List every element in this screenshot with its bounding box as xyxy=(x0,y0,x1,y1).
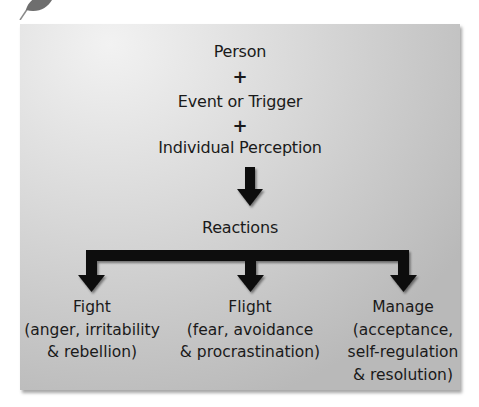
outcome-flight: Flight (fear, avoidance & procrastinatio… xyxy=(165,296,335,364)
leaf-icon xyxy=(14,0,56,20)
outcome-manage: Manage (acceptance, self-regulation & re… xyxy=(318,296,479,386)
outcome-detail: self-regulation xyxy=(318,341,479,364)
outcome-fight: Fight (anger, irritability & rebellion) xyxy=(7,296,177,364)
down-arrow-icon xyxy=(237,167,263,206)
outcome-detail: & procrastination) xyxy=(165,341,335,364)
outcome-detail: & rebellion) xyxy=(7,341,177,364)
outcome-title: Flight xyxy=(165,296,335,319)
outcome-detail: & resolution) xyxy=(318,364,479,387)
outcome-detail: (fear, avoidance xyxy=(165,319,335,342)
outcome-detail: (anger, irritability xyxy=(7,319,177,342)
outcome-title: Fight xyxy=(7,296,177,319)
outcome-title: Manage xyxy=(318,296,479,319)
outcome-detail: (acceptance, xyxy=(318,319,479,342)
diagram-panel: Person + Event or Trigger + Individual P… xyxy=(20,24,460,390)
